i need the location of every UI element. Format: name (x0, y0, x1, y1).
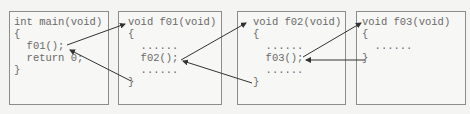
code-line: } (128, 76, 134, 88)
code-line: { (253, 28, 259, 40)
code-line: void f02(void) (253, 16, 341, 28)
code-line: } (362, 52, 368, 64)
code-line: f03(); (253, 52, 303, 64)
code-line: int main(void) (14, 16, 102, 28)
code-line: { (128, 28, 134, 40)
code-line: ...... (128, 64, 178, 76)
code-line: ...... (362, 40, 412, 52)
code-line: f02(); (128, 52, 178, 64)
code-line: ...... (253, 64, 303, 76)
code-line: ...... (128, 40, 178, 52)
code-line: } (253, 76, 259, 88)
code-line: ...... (253, 40, 303, 52)
code-line: f01(); (14, 40, 64, 52)
code-line: return 0; (14, 52, 83, 64)
code-line: { (14, 28, 20, 40)
code-line: void f03(void) (362, 16, 450, 28)
code-line: } (14, 64, 20, 76)
code-line: void f01(void) (128, 16, 216, 28)
code-line: { (362, 28, 368, 40)
